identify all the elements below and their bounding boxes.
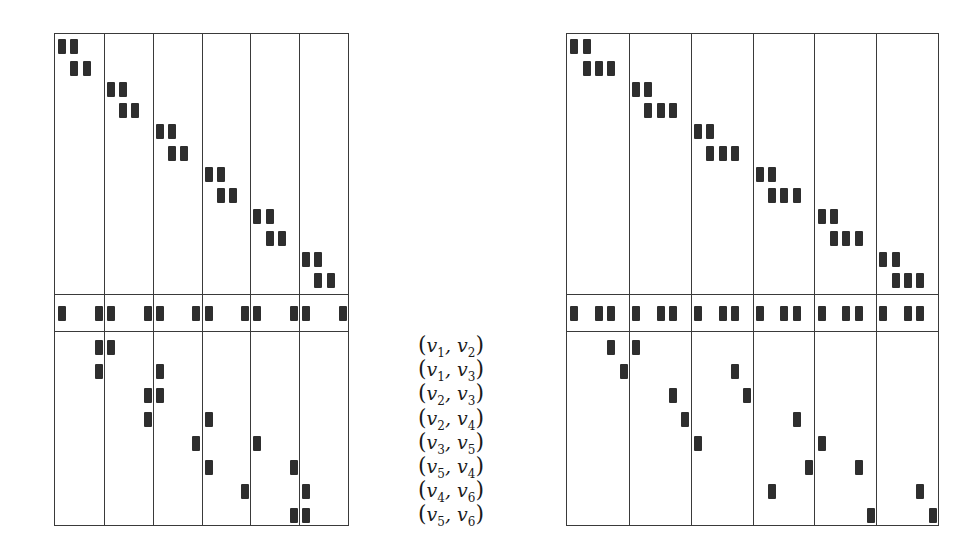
edge-label: (v3, v5) (418, 430, 508, 454)
matrix-entry (731, 146, 739, 161)
matrix-entry (314, 273, 322, 288)
column-divider (753, 34, 754, 525)
edge-label-list: (v1, v2) (v1, v3) (v2, v3) (v2, v4) (v3,… (418, 333, 508, 527)
column-divider (691, 34, 692, 525)
matrix-entry (818, 209, 826, 224)
matrix-entry (842, 306, 850, 321)
matrix-entry (205, 167, 213, 182)
matrix-entry (780, 306, 788, 321)
matrix-entry (768, 484, 776, 499)
matrix-entry (855, 231, 863, 246)
edge-label: (v1, v3) (418, 357, 508, 381)
matrix-entry (855, 460, 863, 475)
matrix-entry (793, 412, 801, 427)
matrix-entry (780, 188, 788, 203)
matrix-entry (818, 306, 826, 321)
matrix-entry (929, 508, 937, 523)
matrix-entry (570, 39, 578, 54)
matrix-entry (607, 306, 615, 321)
matrix-entry (768, 188, 776, 203)
matrix-entry (156, 388, 164, 403)
edge-label: (v2, v4) (418, 406, 508, 430)
matrix-entry (144, 306, 152, 321)
matrix-entry (95, 340, 103, 355)
matrix-entry (290, 306, 298, 321)
matrix-entry (830, 209, 838, 224)
matrix-entry (694, 436, 702, 451)
matrix-entry (278, 231, 286, 246)
matrix-entry (756, 167, 764, 182)
matrix-entry (669, 103, 677, 118)
matrix-entry (156, 364, 164, 379)
left-incidence-matrix (54, 33, 349, 526)
matrix-entry (339, 306, 347, 321)
edge-label: (v4, v6) (418, 478, 508, 502)
matrix-entry (756, 306, 764, 321)
matrix-entry (205, 306, 213, 321)
matrix-entry (107, 306, 115, 321)
matrix-entry (632, 82, 640, 97)
matrix-entry (107, 82, 115, 97)
matrix-entry (156, 306, 164, 321)
matrix-entry (694, 306, 702, 321)
matrix-entry (892, 273, 900, 288)
matrix-entry (595, 306, 603, 321)
matrix-entry (657, 103, 665, 118)
column-divider (629, 34, 630, 525)
matrix-entry (302, 508, 310, 523)
matrix-entry (192, 436, 200, 451)
matrix-entry (743, 388, 751, 403)
matrix-entry (916, 484, 924, 499)
matrix-entry (107, 340, 115, 355)
matrix-entry (855, 306, 863, 321)
matrix-entry (229, 188, 237, 203)
row-divider (55, 294, 348, 295)
matrix-entry (253, 209, 261, 224)
column-divider (104, 34, 105, 525)
matrix-entry (644, 103, 652, 118)
matrix-entry (706, 124, 714, 139)
column-divider (153, 34, 154, 525)
matrix-entry (266, 209, 274, 224)
column-divider (876, 34, 877, 525)
matrix-entry (793, 188, 801, 203)
matrix-entry (83, 61, 91, 76)
matrix-entry (241, 484, 249, 499)
matrix-entry (719, 306, 727, 321)
edge-label: (v5, v6) (418, 502, 508, 526)
matrix-entry (95, 306, 103, 321)
matrix-entry (70, 39, 78, 54)
matrix-entry (669, 388, 677, 403)
row-divider (567, 331, 938, 332)
matrix-entry (793, 306, 801, 321)
right-incidence-matrix (566, 33, 939, 526)
matrix-entry (768, 167, 776, 182)
matrix-entry (131, 103, 139, 118)
matrix-entry (842, 231, 850, 246)
matrix-entry (290, 460, 298, 475)
matrix-entry (168, 124, 176, 139)
matrix-entry (904, 273, 912, 288)
edge-label: (v1, v2) (418, 333, 508, 357)
row-divider (55, 331, 348, 332)
matrix-entry (904, 306, 912, 321)
matrix-entry (205, 460, 213, 475)
matrix-entry (719, 146, 727, 161)
matrix-entry (205, 412, 213, 427)
matrix-entry (632, 340, 640, 355)
matrix-entry (314, 252, 322, 267)
matrix-entry (805, 460, 813, 475)
matrix-entry (144, 412, 152, 427)
matrix-entry (879, 252, 887, 267)
matrix-entry (192, 306, 200, 321)
matrix-entry (302, 306, 310, 321)
matrix-entry (644, 82, 652, 97)
matrix-entry (180, 146, 188, 161)
matrix-entry (144, 388, 152, 403)
matrix-entry (119, 103, 127, 118)
matrix-entry (879, 306, 887, 321)
column-divider (202, 34, 203, 525)
matrix-entry (892, 252, 900, 267)
matrix-entry (607, 61, 615, 76)
matrix-entry (302, 484, 310, 499)
